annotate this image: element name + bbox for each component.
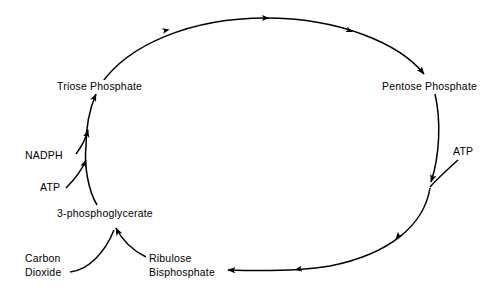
arrow-carbon-dioxide-input (70, 230, 114, 272)
input-label-atp-right: ATP (452, 145, 474, 158)
cycle-arrows-svg (0, 0, 494, 297)
node-label-pentose-phosphate: Pentose Phosphate (381, 80, 478, 93)
arrow-triose-to-pentose (101, 18, 424, 84)
input-label-atp-left: ATP (39, 181, 61, 194)
arrow-right-to-ribulose (228, 188, 430, 271)
node-label-triose-phosphate: Triose Phosphate (56, 80, 143, 93)
node-label-ribulose-bisphosphate: Ribulose Bisphosphate (148, 251, 216, 279)
arrow-3pg-to-triose (85, 94, 97, 205)
input-label-nadph: NADPH (24, 149, 64, 162)
arrow-pentose-down (431, 94, 439, 182)
arrow-atp-left-input (66, 160, 86, 188)
input-label-carbon-dioxide: Carbon Dioxide (24, 251, 62, 279)
arrow-ribulose-to-3pg (116, 228, 146, 257)
node-label-3-phosphoglycerate: 3-phosphoglycerate (56, 207, 154, 220)
calvin-cycle-diagram: Triose Phosphate Pentose Phosphate Ribul… (0, 0, 494, 297)
